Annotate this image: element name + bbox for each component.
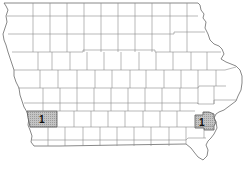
county-label-muscatine: 1: [199, 117, 205, 128]
state-outline: [3, 3, 242, 160]
iowa-county-map: 1 1: [0, 0, 246, 176]
county-label-pottawattamie: 1: [39, 114, 45, 125]
